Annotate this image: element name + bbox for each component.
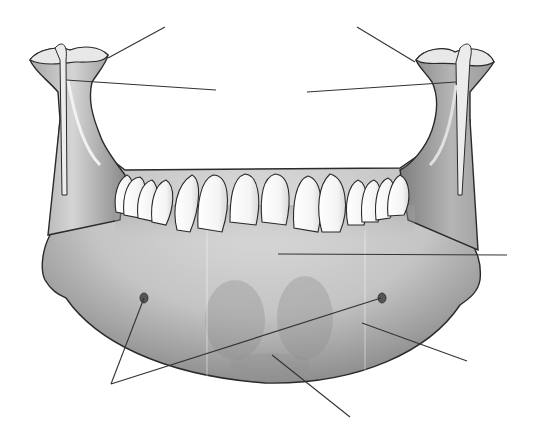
leader-line-left-condyle xyxy=(108,27,165,58)
tooth xyxy=(261,174,289,225)
mandible-illustration xyxy=(0,0,538,441)
right-condyle xyxy=(416,49,494,66)
mandible-diagram: Mandible (lower jaw) — anterior view wit… xyxy=(0,0,538,441)
leader-line-right-condyle xyxy=(357,27,415,62)
left-condyle xyxy=(30,47,108,64)
left-ramus xyxy=(30,48,125,235)
